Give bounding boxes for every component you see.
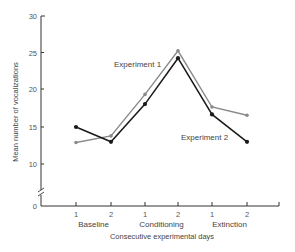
series-experiment-1 [74,49,249,144]
x-tick-label: 2 [245,210,249,219]
series-experiment-2 [74,56,249,144]
x-group-label-conditioning: Conditioning [139,220,183,229]
x-tick-label: 1 [74,210,78,219]
data-point-marker [143,93,147,97]
x-axis: 1 2 1 2 1 2 Baseline Conditioning Extinc… [41,202,279,241]
line-chart: 30 25 20 15 10 0 Mean number of vocaliza… [0,0,295,252]
x-tick-label: 2 [176,210,180,219]
y-tick-label: 10 [29,160,37,169]
data-point-marker [176,49,180,53]
x-group-label-extinction: Extinction [212,220,247,229]
x-tick-label: 1 [143,210,147,219]
data-point-marker [109,140,113,144]
y-tick-label: 15 [29,123,37,132]
data-point-marker [176,56,180,60]
data-point-marker [109,134,113,138]
x-group-label-baseline: Baseline [78,220,109,229]
data-point-marker [210,112,214,116]
series-label-experiment-1: Experiment 1 [114,60,162,69]
y-tick-label: 25 [29,49,37,58]
series-line [76,51,247,143]
data-point-marker [143,102,147,106]
x-tick-label: 2 [109,210,113,219]
y-axis: 30 25 20 15 10 0 Mean number of vocaliza… [11,12,45,211]
data-point-marker [74,125,78,129]
y-tick-label: 0 [33,202,37,211]
x-tick-label: 1 [210,210,214,219]
series-line [76,58,247,142]
data-point-marker [245,113,249,117]
data-point-marker [74,141,78,145]
data-point-marker [245,140,249,144]
series-label-experiment-2: Experiment 2 [181,133,229,142]
x-axis-title: Consecutive experimental days [110,232,214,241]
data-point-marker [210,105,214,109]
y-axis-title: Mean number of vocalizations [11,62,20,162]
y-tick-label: 20 [29,85,37,94]
y-tick-label: 30 [29,12,37,21]
